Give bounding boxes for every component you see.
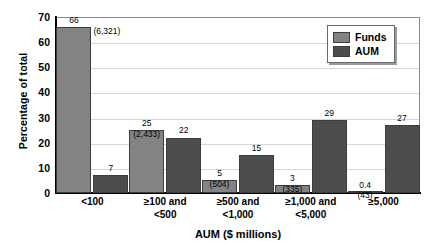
y-axis-tick-labels: 706050403020100 bbox=[22, 17, 50, 193]
bar-value-label: 66 bbox=[50, 16, 97, 26]
bar-value-label: 22 bbox=[160, 126, 207, 136]
x-category-label-4: ≥5,000 bbox=[347, 196, 420, 209]
bar-count-label: (6,321) bbox=[93, 27, 135, 37]
x-category-label-0: <100 bbox=[56, 196, 129, 209]
bar-chart: Percentage of total 706050403020100 66(6… bbox=[0, 0, 427, 248]
bar-value-label: 0.4 bbox=[342, 181, 389, 191]
x-category-line: <1,000 bbox=[202, 209, 275, 222]
y-tick-label: 30 bbox=[26, 112, 50, 124]
bar-value-label: 5 bbox=[196, 169, 243, 179]
bar-value-label: 3 bbox=[269, 174, 316, 184]
x-category-label-2: ≥500 and<1,000 bbox=[202, 196, 275, 221]
x-category-line: <100 bbox=[56, 196, 129, 209]
x-category-line: ≥100 and bbox=[129, 196, 202, 209]
bar-value-label: 29 bbox=[306, 109, 353, 119]
bar-value-label: 15 bbox=[233, 144, 280, 154]
bar-aum-3[interactable] bbox=[312, 120, 347, 193]
bar-count-label: (504) bbox=[196, 180, 243, 190]
legend-swatch-icon bbox=[333, 46, 350, 57]
legend-label: Funds bbox=[355, 31, 387, 43]
y-tick-label: 0 bbox=[26, 187, 50, 199]
legend-swatch-icon bbox=[333, 32, 350, 43]
bar-count-label: (335) bbox=[269, 185, 316, 195]
bar-aum-0[interactable] bbox=[93, 175, 128, 193]
x-axis-title: AUM ($ millions) bbox=[56, 228, 420, 240]
bar-value-label: 27 bbox=[379, 114, 426, 124]
x-category-line: ≥1,000 and bbox=[274, 196, 347, 209]
bar-funds-0[interactable] bbox=[56, 27, 91, 193]
bar-value-label: 7 bbox=[87, 164, 134, 174]
legend: FundsAUM bbox=[327, 25, 395, 63]
legend-item-aum[interactable]: AUM bbox=[333, 44, 387, 58]
bar-aum-2[interactable] bbox=[239, 155, 274, 193]
x-axis-category-labels: <100≥100 and<500≥500 and<1,000≥1,000 and… bbox=[56, 196, 420, 226]
bar-funds-1[interactable] bbox=[129, 130, 164, 193]
legend-item-funds[interactable]: Funds bbox=[333, 30, 387, 44]
x-category-line: ≥500 and bbox=[202, 196, 275, 209]
y-tick-label: 20 bbox=[26, 137, 50, 149]
x-category-label-3: ≥1,000 and<5,000 bbox=[274, 196, 347, 221]
y-tick-label: 10 bbox=[26, 162, 50, 174]
y-tick-label: 60 bbox=[26, 36, 50, 48]
bar-aum-1[interactable] bbox=[166, 138, 201, 193]
y-tick-label: 50 bbox=[26, 61, 50, 73]
bar-aum-4[interactable] bbox=[385, 125, 420, 193]
x-category-line: <500 bbox=[129, 209, 202, 222]
x-category-line: <5,000 bbox=[274, 209, 347, 222]
x-category-label-1: ≥100 and<500 bbox=[129, 196, 202, 221]
y-tick-label: 40 bbox=[26, 86, 50, 98]
legend-label: AUM bbox=[355, 45, 379, 57]
y-tick-label: 70 bbox=[26, 11, 50, 23]
x-category-line: ≥5,000 bbox=[347, 196, 420, 209]
